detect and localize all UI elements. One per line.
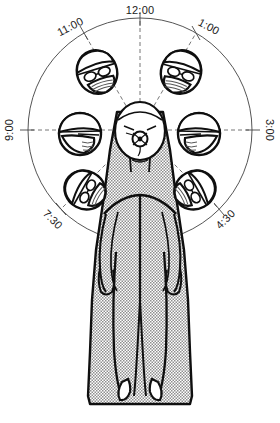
clock-label-12: 12:00 <box>126 4 155 16</box>
figure-canvas: 12:00 1:00 3:00 4:30 7:30 9:00 11:00 <box>0 0 280 423</box>
clock-label-3: 3:00 <box>264 119 276 141</box>
clock-label-9: 9:00 <box>3 119 15 141</box>
cap-edge <box>178 131 220 132</box>
surgeon-head-3[interactable] <box>178 113 220 155</box>
surgeon-head-9[interactable] <box>59 113 101 155</box>
clock-face-surgeon-diagram: 12:00 1:00 3:00 4:30 7:30 9:00 11:00 <box>0 0 280 423</box>
cap-edge <box>59 131 101 132</box>
operative-eye-target <box>133 132 148 147</box>
